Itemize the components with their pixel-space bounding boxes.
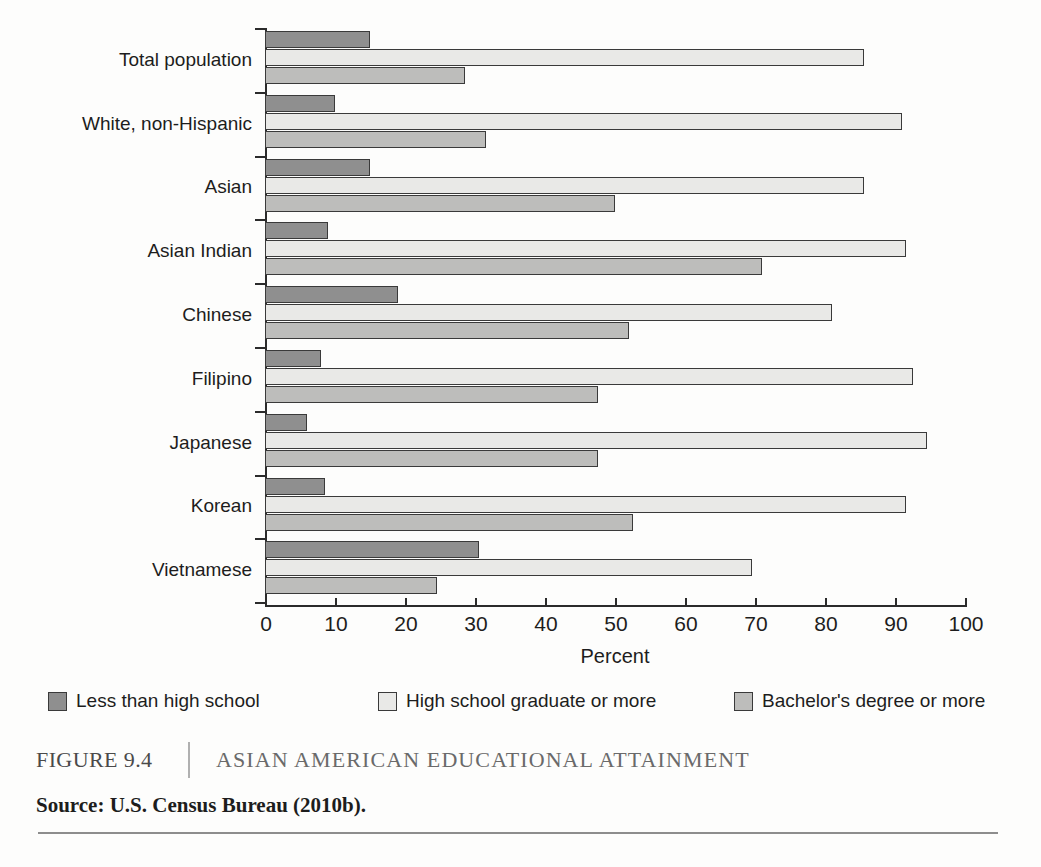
x-axis-tick: [755, 598, 757, 607]
bar: [265, 286, 398, 303]
category-label-row: White, non-Hispanic: [0, 92, 252, 156]
x-axis-tick: [895, 598, 897, 607]
category-label-row: Japanese: [0, 411, 252, 475]
x-axis-tick: [265, 598, 267, 607]
category-label: Japanese: [0, 432, 252, 454]
category-label-row: Asian: [0, 156, 252, 220]
bar-group: [265, 411, 965, 475]
bar: [265, 322, 629, 339]
category-label: Total population: [0, 49, 252, 71]
bar: [265, 222, 328, 239]
bar-group: [265, 28, 965, 92]
bar-group: [265, 92, 965, 156]
bar: [265, 195, 615, 212]
category-label: Asian: [0, 176, 252, 198]
category-label: Chinese: [0, 304, 252, 326]
bar: [265, 258, 762, 275]
category-label: Vietnamese: [0, 559, 252, 581]
x-axis-tick-label: 0: [260, 612, 272, 636]
x-axis-tick: [475, 598, 477, 607]
bar-groups: [265, 28, 965, 603]
category-label-row: Asian Indian: [0, 219, 252, 283]
bar: [265, 95, 335, 112]
page-bottom-rule: [38, 832, 998, 834]
bar-group: [265, 156, 965, 220]
category-label: White, non-Hispanic: [0, 113, 252, 135]
category-label: Filipino: [0, 368, 252, 390]
x-axis-title: Percent: [265, 645, 965, 668]
legend-swatch-icon: [48, 692, 67, 711]
legend-label: Bachelor's degree or more: [762, 690, 985, 712]
caption-divider: [188, 742, 190, 778]
bar: [265, 559, 752, 576]
legend-label: High school graduate or more: [406, 690, 656, 712]
legend-item: Less than high school: [48, 690, 260, 712]
bar: [265, 414, 307, 431]
x-axis-tick-label: 40: [534, 612, 557, 636]
bar: [265, 514, 633, 531]
x-axis-tick: [545, 598, 547, 607]
category-label-row: Korean: [0, 475, 252, 539]
bar-group: [265, 283, 965, 347]
bar: [265, 67, 465, 84]
bar: [265, 31, 370, 48]
x-axis-tick: [825, 598, 827, 607]
bar: [265, 49, 864, 66]
x-axis-tick: [405, 598, 407, 607]
x-axis-tick: [335, 598, 337, 607]
legend-label: Less than high school: [76, 690, 260, 712]
category-label-row: Total population: [0, 28, 252, 92]
x-axis-tick: [615, 598, 617, 607]
legend-item: Bachelor's degree or more: [734, 690, 985, 712]
x-axis-tick-label: 20: [394, 612, 417, 636]
x-axis-tick-label: 70: [744, 612, 767, 636]
x-axis-tick-label: 60: [674, 612, 697, 636]
figure-number: FIGURE 9.4: [36, 747, 188, 773]
figure-title: ASIAN AMERICAN EDUCATIONAL ATTAINMENT: [216, 747, 750, 773]
bar: [265, 304, 832, 321]
x-axis-tick: [965, 598, 967, 607]
category-label-row: Chinese: [0, 283, 252, 347]
figure-caption: FIGURE 9.4 ASIAN AMERICAN EDUCATIONAL AT…: [36, 740, 1016, 780]
bar: [265, 240, 906, 257]
chart-figure: Total populationWhite, non-HispanicAsian…: [0, 0, 1041, 672]
x-axis-tick-label: 10: [324, 612, 347, 636]
bar: [265, 478, 325, 495]
bar: [265, 159, 370, 176]
legend-swatch-icon: [378, 692, 397, 711]
x-axis-tick-label: 50: [604, 612, 627, 636]
x-axis-tick: [685, 598, 687, 607]
category-label-row: Filipino: [0, 347, 252, 411]
bar: [265, 113, 902, 130]
chart-legend: Less than high schoolHigh school graduat…: [48, 690, 1008, 718]
category-label-row: Vietnamese: [0, 538, 252, 602]
x-axis-tick-label: 100: [948, 612, 983, 636]
bar: [265, 368, 913, 385]
bar: [265, 386, 598, 403]
bar: [265, 541, 479, 558]
legend-item: High school graduate or more: [378, 690, 656, 712]
bar-group: [265, 538, 965, 602]
bar-group: [265, 347, 965, 411]
bar: [265, 577, 437, 594]
bar-group: [265, 219, 965, 283]
plot-area: [265, 28, 965, 603]
bar: [265, 450, 598, 467]
bar: [265, 496, 906, 513]
x-axis-tick-label: 90: [884, 612, 907, 636]
category-axis-labels: Total populationWhite, non-HispanicAsian…: [0, 28, 252, 603]
bar-group: [265, 475, 965, 539]
category-label: Asian Indian: [0, 240, 252, 262]
legend-swatch-icon: [734, 692, 753, 711]
bar: [265, 350, 321, 367]
bar: [265, 177, 864, 194]
figure-source: Source: U.S. Census Bureau (2010b).: [36, 793, 366, 818]
x-axis-tick-label: 80: [814, 612, 837, 636]
category-label: Korean: [0, 495, 252, 517]
bar: [265, 131, 486, 148]
bar: [265, 432, 927, 449]
x-axis-tick-label: 30: [464, 612, 487, 636]
